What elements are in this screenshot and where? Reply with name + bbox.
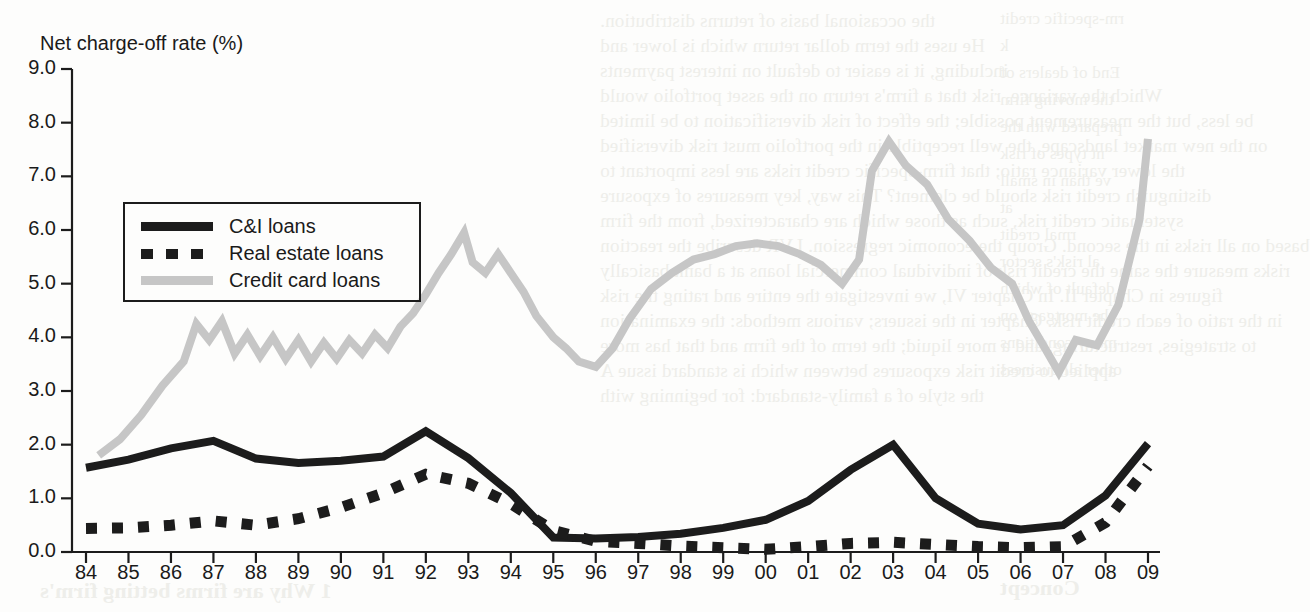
x-tick-label: 06: [1001, 561, 1041, 584]
x-tick-label: 99: [703, 561, 743, 584]
x-tick-label: 88: [236, 561, 276, 584]
legend-key-gray-line-icon: [141, 276, 213, 285]
x-tick-label: 00: [746, 561, 786, 584]
axes: [61, 69, 1160, 563]
y-tick-label: 3.0: [8, 378, 56, 401]
x-tick-label: 94: [491, 561, 531, 584]
y-tick-label: 0.0: [8, 539, 56, 562]
y-tick-label: 1.0: [8, 485, 56, 508]
y-tick-label: 4.0: [8, 324, 56, 347]
data-series-layer: [86, 139, 1148, 550]
x-tick-label: 03: [873, 561, 913, 584]
legend-label-real-estate-loans: Real estate loans: [229, 242, 384, 265]
x-tick-label: 93: [448, 561, 488, 584]
y-tick-label: 5.0: [8, 271, 56, 294]
y-axis-ticks: [61, 69, 72, 552]
x-tick-label: 07: [1043, 561, 1083, 584]
x-tick-label: 95: [533, 561, 573, 584]
legend-label-ci-loans: C&I loans: [229, 215, 316, 238]
x-tick-label: 08: [1086, 561, 1126, 584]
x-tick-label: 09: [1128, 561, 1168, 584]
x-tick-label: 85: [108, 561, 148, 584]
chart-title: Net charge-off rate (%): [40, 32, 243, 55]
legend-key-dashed-line-icon: [141, 249, 213, 259]
legend-item-ci-loans: C&I loans: [141, 213, 419, 240]
x-tick-label: 91: [363, 561, 403, 584]
y-tick-label: 6.0: [8, 217, 56, 240]
legend-label-credit-card-loans: Credit card loans: [229, 269, 380, 292]
legend-item-real-estate-loans: Real estate loans: [141, 240, 419, 267]
x-tick-label: 84: [66, 561, 106, 584]
x-tick-label: 98: [661, 561, 701, 584]
y-tick-label: 7.0: [8, 163, 56, 186]
x-tick-label: 87: [193, 561, 233, 584]
x-tick-label: 02: [831, 561, 871, 584]
x-tick-label: 92: [406, 561, 446, 584]
x-tick-label: 96: [576, 561, 616, 584]
x-tick-label: 05: [958, 561, 998, 584]
legend-item-credit-card-loans: Credit card loans: [141, 267, 419, 294]
legend-key-solid-line-icon: [141, 222, 213, 231]
x-tick-label: 04: [916, 561, 956, 584]
x-tick-label: 01: [788, 561, 828, 584]
chart-legend: C&I loans Real estate loans Credit card …: [123, 202, 421, 302]
x-tick-label: 89: [278, 561, 318, 584]
x-tick-label: 86: [151, 561, 191, 584]
x-tick-label: 90: [321, 561, 361, 584]
y-tick-label: 8.0: [8, 110, 56, 133]
y-tick-label: 2.0: [8, 432, 56, 455]
y-tick-label: 9.0: [8, 56, 56, 79]
x-tick-label: 97: [618, 561, 658, 584]
